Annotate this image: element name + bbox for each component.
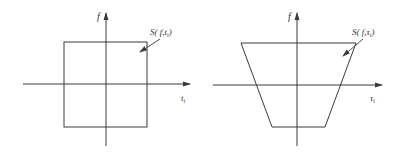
left-diagram: f ti S( f,ti) — [23, 11, 190, 146]
right-pointer-arrow — [343, 39, 363, 56]
left-y-axis-label: f — [97, 11, 101, 22]
left-pointer-arrow — [140, 39, 160, 52]
left-x-axis-label: ti — [181, 93, 186, 104]
diagram-canvas: f ti S( f,ti) f τi S( f,τi) — [0, 0, 404, 153]
right-y-axis-label: f — [288, 11, 292, 22]
right-region-label: S( f,τi) — [352, 27, 374, 38]
right-x-axis-label: τi — [370, 93, 375, 104]
right-diagram: f τi S( f,τi) — [213, 11, 382, 146]
left-region-label: S( f,ti) — [150, 27, 172, 38]
